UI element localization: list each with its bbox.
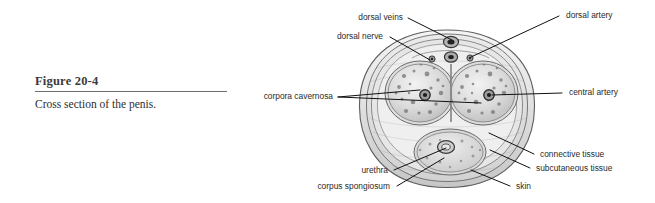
dorsal-artery-vessel [444, 52, 457, 62]
corpora-cavernosa-bodies [385, 61, 518, 125]
label-subcutaneous-tissue: subcutaneous tissue [536, 163, 612, 173]
label-dorsal-nerve: dorsal nerve [258, 31, 383, 41]
label-urethra: urethra [300, 165, 388, 175]
corpus-spongiosum-body [414, 129, 486, 175]
label-central-artery: central artery [569, 87, 618, 97]
label-connective-tissue: connective tissue [540, 149, 604, 159]
label-corpora-cavernosa: corpora cavernosa [200, 91, 333, 101]
figure-container: Figure 20-4 Cross section of the penis. [0, 0, 655, 203]
label-corpus-spongiosum: corpus spongiosum [272, 181, 390, 191]
label-dorsal-artery: dorsal artery [566, 10, 613, 20]
label-dorsal-veins: dorsal veins [268, 12, 403, 22]
dorsal-vein-vessel [444, 36, 459, 47]
urethra-lumen [438, 141, 455, 154]
label-skin: skin [516, 181, 531, 191]
